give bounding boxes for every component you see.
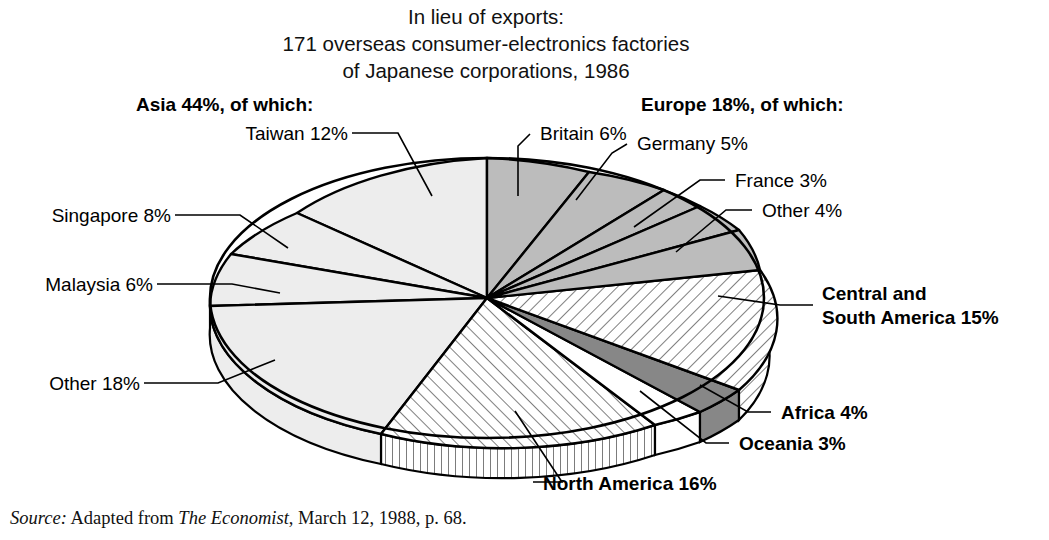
label-central-south-america-line1: Central and (822, 283, 927, 304)
label-britain: Britain 6% (540, 123, 627, 144)
pie-chart-figure: In lieu of exports: 171 overseas consume… (0, 0, 1049, 540)
label-france: France 3% (735, 170, 827, 191)
pie-3d-body (210, 158, 778, 478)
title-line-3: of Japanese corporations, 1986 (342, 59, 629, 82)
source-note: Source: Adapted from The Economist, Marc… (10, 508, 467, 529)
chart-canvas: In lieu of exports: 171 overseas consume… (0, 0, 1049, 540)
title-line-2: 171 overseas consumer-electronics factor… (283, 32, 690, 55)
label-germany: Germany 5% (637, 133, 748, 154)
label-africa: Africa 4% (781, 402, 868, 423)
group-header-europe: Europe 18%, of which: (641, 94, 844, 115)
group-header-asia: Asia 44%, of which: (136, 94, 313, 115)
label-taiwan: Taiwan 12% (246, 123, 349, 144)
label-asia-other: Other 18% (49, 373, 140, 394)
source-suffix: , March 12, 1988, p. 68. (289, 508, 467, 528)
label-malaysia: Malaysia 6% (45, 274, 153, 295)
source-mid: Adapted from (67, 508, 179, 528)
title-line-1: In lieu of exports: (408, 5, 564, 28)
label-oceania: Oceania 3% (739, 433, 846, 454)
source-prefix: Source: (10, 508, 67, 528)
label-north-america: North America 16% (543, 473, 717, 494)
label-europe-other: Other 4% (762, 200, 842, 221)
label-central-south-america-line2: South America 15% (822, 307, 999, 328)
source-publication: The Economist (178, 508, 288, 528)
label-singapore: Singapore 8% (52, 205, 171, 226)
